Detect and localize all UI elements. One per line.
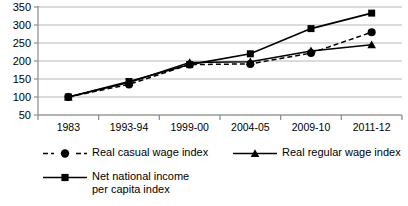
y-axis (34, 6, 38, 115)
legend-entry-real-regular-wage-index: Real regular wage index (232, 146, 401, 160)
data-point (247, 50, 254, 57)
legend-entry-real-casual-wage-index: Real casual wage index (42, 146, 208, 160)
legend-entry-net-national-income-per-capita-index: Net national income per capita index (42, 170, 189, 195)
y-tick-label: 50 (19, 109, 31, 121)
series-2 (64, 41, 376, 101)
legend-label: Real casual wage index (92, 146, 208, 159)
x-tick-labels: 19831993-941999-002004-052009-102011-12 (57, 121, 391, 133)
x-tick-label: 2011-12 (353, 121, 391, 133)
plot-area: 50100150200250300350 19831993-941999-002… (0, 0, 408, 136)
y-tick-label: 150 (13, 73, 31, 85)
data-point (368, 28, 376, 36)
legend-label: Real regular wage index (282, 146, 401, 159)
x-tick-label: 1983 (57, 121, 81, 133)
x-tick-label: 2004-05 (231, 121, 270, 133)
y-tick-label: 350 (13, 1, 31, 13)
data-series (64, 10, 376, 101)
chart-legend: Real casual wage index Real regular wage… (0, 140, 408, 206)
x-axis (38, 115, 402, 120)
y-tick-label: 300 (13, 19, 31, 31)
x-tick-label: 1993-94 (110, 121, 149, 133)
y-tick-label: 200 (13, 55, 31, 67)
legend-marker-circle-dashed (42, 147, 88, 160)
data-point (65, 94, 72, 101)
data-point (368, 10, 375, 17)
legend-label: Net national income per capita index (92, 170, 189, 195)
data-point (186, 61, 193, 68)
gridlines (38, 7, 402, 115)
y-tick-label: 250 (13, 37, 31, 49)
legend-marker-square-solid (42, 171, 88, 184)
data-point (308, 25, 315, 32)
y-tick-labels: 50100150200250300350 (13, 1, 31, 121)
line-chart: 50100150200250300350 19831993-941999-002… (0, 0, 408, 206)
x-tick-label: 2009-10 (292, 121, 331, 133)
plot-svg: 50100150200250300350 19831993-941999-002… (0, 0, 408, 136)
data-point (126, 78, 133, 85)
x-tick-label: 1999-00 (170, 121, 209, 133)
y-tick-label: 100 (13, 91, 31, 103)
legend-marker-triangle-solid (232, 147, 278, 160)
series-1 (64, 28, 375, 101)
